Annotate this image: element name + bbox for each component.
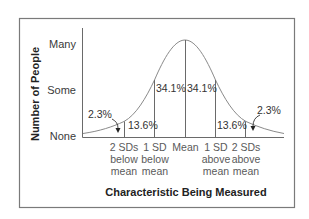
x-tick-minus1: 1 SD below mean [141,141,169,177]
svg-text:Mean: Mean [172,141,198,153]
svg-text:1 SD: 1 SD [143,141,167,153]
x-tick-minus2: 2 SDs below mean [110,141,139,177]
svg-text:mean: mean [111,165,137,177]
svg-text:2 SDs: 2 SDs [232,141,261,153]
svg-text:below: below [110,153,138,165]
svg-text:mean: mean [233,165,259,177]
normal-distribution-chart: Number of People Many Some None 2.3% 13.… [0,0,309,219]
y-level-some: Some [47,84,76,96]
svg-text:above: above [202,153,231,165]
pct-left-tail: 2.3% [88,108,112,120]
x-axis-title: Characteristic Being Measured [105,186,266,198]
svg-text:below: below [141,153,169,165]
arrow-right-tail [253,115,260,126]
arrowhead-left-tail-icon [116,128,121,133]
arrowhead-right-tail-icon [251,126,256,131]
pct-left-13: 13.6% [128,119,158,131]
y-axis-title: Number of People [29,47,41,141]
pct-right-34: 34.1% [187,82,217,94]
y-level-none: None [50,130,76,142]
pct-right-13: 13.6% [217,119,247,131]
x-tick-mean: Mean [172,141,198,153]
svg-text:mean: mean [203,165,229,177]
arrow-left-tail [112,119,118,128]
svg-text:mean: mean [142,165,168,177]
svg-text:2 SDs: 2 SDs [110,141,139,153]
svg-text:above: above [232,153,261,165]
x-tick-plus2: 2 SDs above mean [232,141,261,177]
y-level-many: Many [49,38,76,50]
pct-left-34: 34.1% [156,82,186,94]
pct-right-tail: 2.3% [257,104,281,116]
x-tick-plus1: 1 SD above mean [202,141,231,177]
svg-text:1 SD: 1 SD [204,141,228,153]
